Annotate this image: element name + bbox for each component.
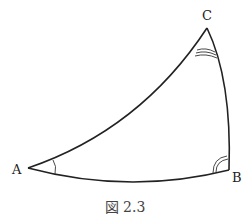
side-ab — [28, 168, 229, 182]
figure-caption: 図 2.3 — [105, 199, 146, 215]
angle-mark-c — [195, 49, 217, 58]
vertex-label-c: C — [202, 8, 212, 23]
curved-triangle-diagram: C A B 図 2.3 — [0, 0, 250, 220]
angle-mark-a — [53, 160, 56, 174]
side-ac — [28, 28, 207, 168]
vertex-label-a: A — [11, 162, 22, 177]
vertex-label-b: B — [232, 170, 242, 185]
side-cb — [207, 28, 229, 170]
